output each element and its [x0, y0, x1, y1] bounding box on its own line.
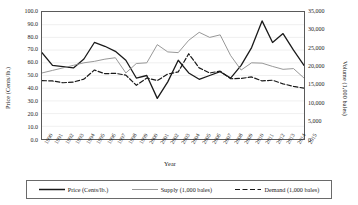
series-lines: [42, 21, 304, 98]
legend-swatch: [235, 186, 261, 193]
dual-axis-line-chart: Price (Cents/lb.) Volume (1,000 bales) Y…: [0, 0, 358, 205]
x-axis-ticks: 1990199119921993199419951996199719981999…: [41, 141, 305, 171]
gridlines: [42, 25, 304, 127]
legend-label: Price (Cents/lb.): [68, 186, 109, 193]
plot-svg: [42, 12, 304, 139]
y-axis-left-tick: 60.0: [8, 59, 38, 65]
y-axis-left-tick: 50.0: [8, 72, 38, 78]
legend-label: Demand (1,000 bales): [264, 186, 319, 193]
y-axis-right-tick: 5,000: [308, 118, 322, 124]
y-axis-left-tick: 30.0: [8, 98, 38, 104]
chart-legend: Price (Cents/lb.)Supply (1,000 bales)Dem…: [26, 180, 332, 199]
y-axis-left-tick: 20.0: [8, 111, 38, 117]
plot-area: [41, 11, 305, 140]
series-line: [42, 21, 304, 98]
y-axis-left-tick: 80.0: [8, 34, 38, 40]
y-axis-left-tick: 90.0: [8, 21, 38, 27]
y-axis-right-tick: 25,000: [308, 45, 325, 51]
legend-swatch: [132, 186, 158, 193]
y-axis-right-tick: 15,000: [308, 81, 325, 87]
legend-label: Supply (1,000 bales): [161, 186, 212, 193]
y-axis-left-ticks: 100.090.080.070.060.050.040.030.020.010.…: [8, 0, 38, 205]
y-axis-right-tick: 10,000: [308, 100, 325, 106]
y-axis-left-tick: 70.0: [8, 46, 38, 52]
y-axis-left-tick: 10.0: [8, 124, 38, 130]
legend-swatch: [39, 186, 65, 193]
y-axis-right-tick: 30,000: [308, 26, 325, 32]
y-axis-right-ticks: 35,00030,00025,00020,00015,00010,0005,00…: [308, 0, 342, 205]
y-axis-right-tick: 35,000: [308, 8, 325, 14]
legend-item: Demand (1,000 bales): [235, 186, 319, 193]
y-axis-right-tick: 20,000: [308, 63, 325, 69]
y-axis-left-tick: 0.0: [8, 137, 38, 143]
legend-item: Supply (1,000 bales): [132, 186, 212, 193]
y-axis-left-tick: 40.0: [8, 85, 38, 91]
legend-item: Price (Cents/lb.): [39, 186, 109, 193]
y-axis-left-tick: 100.0: [8, 8, 38, 14]
